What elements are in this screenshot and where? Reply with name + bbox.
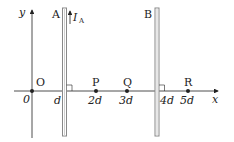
point-q-label: Q [123,76,132,89]
wire-b: B 4d [144,8,174,136]
wire-a-label: A [51,8,61,21]
right-angle-mark-a [67,85,73,91]
point-p-label: P [92,76,100,89]
point-q: Q 3d [119,76,133,107]
wire-a-position: d [54,94,61,107]
point-p-position: 2d [87,94,102,107]
wire-b-position: 4d [159,94,174,107]
point-r: R 5d [180,76,194,107]
point-r-position: 5d [180,94,194,107]
point-q-position: 3d [119,94,133,107]
x-axis-label: x [212,93,219,106]
wire-a: A I A d [51,8,85,136]
magnetic-field-diagram: y x A I A d B 4d O 0 P 2d Q 3d [0,0,234,142]
wire-b-label: B [144,8,152,21]
y-axis: y [18,6,32,138]
current-subscript: A [78,17,85,25]
current-label: I [72,11,78,24]
point-r-label: R [184,76,193,89]
origin-tick: 0 [23,93,30,106]
point-p: P 2d [87,76,102,107]
point-o-label: O [36,76,45,89]
y-axis-label: y [18,6,26,19]
right-angle-mark-b [159,85,165,91]
